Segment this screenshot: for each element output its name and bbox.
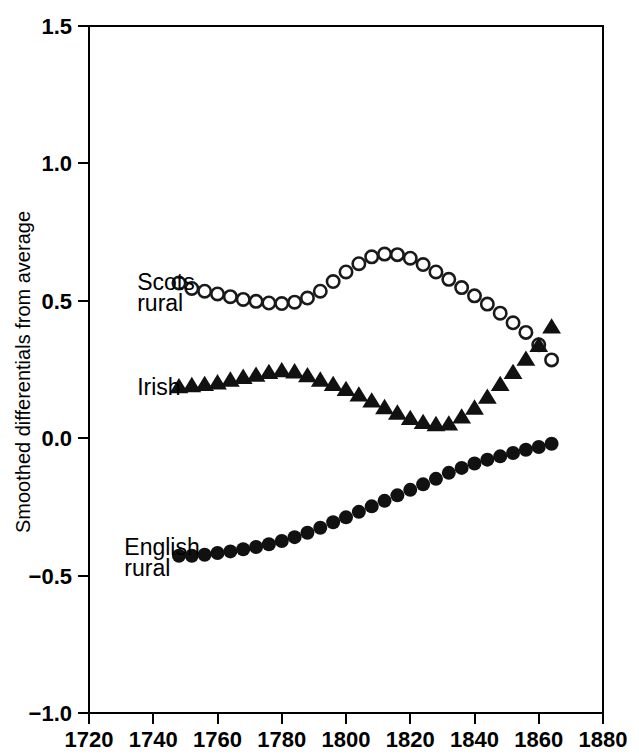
series-english-rural [172,437,559,563]
data-point-filled-circle [390,488,404,502]
data-point-filled-circle [442,466,456,480]
x-tick-label: 1880 [579,727,628,752]
data-point-open-circle [211,288,223,300]
x-tick-label: 1740 [129,727,178,752]
data-series-group [170,248,561,563]
chart-figure: −1.0−0.50.00.51.01.5 1720174017601780180… [0,0,639,755]
plot-axes [89,26,603,713]
data-point-filled-circle [236,542,250,556]
data-point-filled-circle [378,494,392,508]
data-point-open-circle [263,297,275,309]
x-tick-label: 1780 [257,727,306,752]
data-point-open-circle [455,281,467,293]
data-point-open-circle [481,298,493,310]
y-tick-label: 0.0 [41,426,72,451]
scatter-plot-svg: −1.0−0.50.00.51.01.5 1720174017601780180… [0,0,639,755]
data-point-open-circle [353,258,365,270]
data-point-triangle [285,363,304,378]
data-point-open-circle [276,297,288,309]
data-point-filled-circle [545,437,559,451]
data-point-filled-circle [211,546,225,560]
data-point-open-circle [224,290,236,302]
data-point-filled-circle [288,530,302,544]
data-point-open-circle [288,296,300,308]
data-point-open-circle [520,326,532,338]
series-irish [170,318,561,431]
data-point-open-circle [417,258,429,270]
data-point-filled-circle [223,544,237,558]
x-tick-label: 1720 [65,727,114,752]
data-point-filled-circle [455,461,469,475]
x-tick-label: 1820 [386,727,435,752]
data-point-filled-circle [429,472,443,486]
data-point-open-circle [404,252,416,264]
data-point-filled-circle [480,453,494,467]
data-point-filled-circle [506,446,520,460]
data-point-open-circle [366,251,378,263]
x-tick-label: 1760 [193,727,242,752]
data-point-open-circle [378,248,390,260]
series-annotation-label: rural [137,290,183,316]
data-point-filled-circle [519,443,533,457]
data-point-open-circle [340,266,352,278]
data-point-open-circle [250,295,262,307]
y-tick-label: −1.0 [29,701,72,726]
y-tick-label: 1.5 [41,14,72,39]
data-point-open-circle [430,266,442,278]
y-tick-label: −0.5 [29,564,72,589]
data-point-triangle [504,364,523,379]
series-annotation-label: Irish [137,374,180,400]
data-point-open-circle [237,293,249,305]
y-tick-label: 0.5 [41,289,72,314]
data-point-open-circle [301,292,313,304]
data-point-open-circle [443,273,455,285]
data-point-filled-circle [249,540,263,554]
x-tick-label: 1800 [322,727,371,752]
data-point-filled-circle [326,515,340,529]
data-point-filled-circle [275,534,289,548]
data-point-filled-circle [352,505,366,519]
x-axis-ticks: 172017401760178018001820184018601880 [65,713,628,752]
data-point-filled-circle [403,483,417,497]
y-tick-label: 1.0 [41,151,72,176]
series-annotations: ScotsruralIrishEnglishrural [124,269,199,581]
y-axis-title: Smoothed differentials from average [12,211,34,533]
data-point-open-circle [468,290,480,302]
data-point-open-circle [314,285,326,297]
y-axis-ticks: −1.0−0.50.00.51.01.5 [29,14,89,726]
data-point-filled-circle [468,456,482,470]
data-point-open-circle [327,275,339,287]
data-point-open-circle [507,317,519,329]
data-point-filled-circle [532,440,546,454]
data-point-triangle [517,350,536,365]
data-point-filled-circle [339,510,353,524]
data-point-filled-circle [493,449,507,463]
series-annotation-label: rural [124,555,170,581]
axis-frame [89,26,603,713]
data-point-triangle [542,318,561,333]
data-point-filled-circle [262,537,276,551]
data-point-open-circle [391,248,403,260]
data-point-filled-circle [365,499,379,513]
data-point-filled-circle [300,526,314,540]
x-tick-label: 1840 [450,727,499,752]
x-tick-label: 1860 [514,727,563,752]
data-point-open-circle [198,285,210,297]
data-point-filled-circle [313,521,327,535]
data-point-open-circle [545,354,557,366]
series-scots-rural [173,248,558,366]
data-point-filled-circle [416,477,430,491]
data-point-open-circle [494,307,506,319]
